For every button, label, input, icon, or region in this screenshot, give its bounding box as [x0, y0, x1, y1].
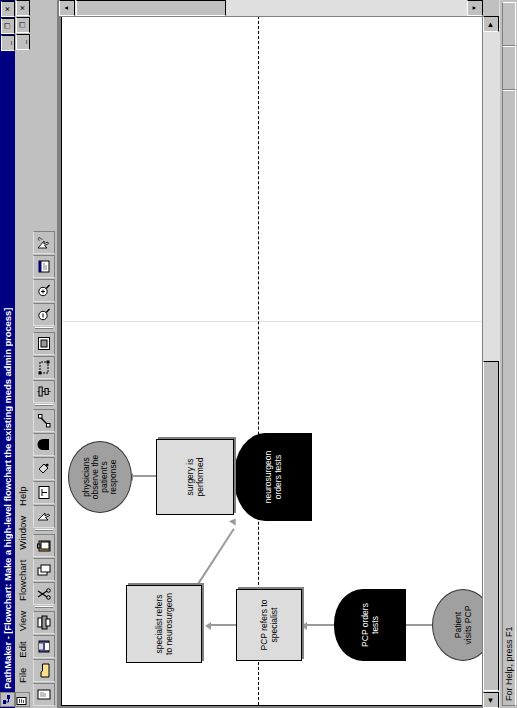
vertical-scroll-thumb[interactable]: [76, 0, 226, 16]
child-minimize-button[interactable]: _: [16, 34, 30, 50]
menu-item-flowchart[interactable]: Flowchart: [16, 555, 29, 606]
flowchart-node-pcp-refers-to-specialist[interactable]: PCP refers to specialist: [236, 589, 302, 661]
scroll-up-button[interactable]: ▲: [59, 0, 75, 16]
toolbar: ?: [31, 0, 58, 708]
status-help-text: For Help, press F1: [502, 90, 516, 706]
arrow-pointer-tool[interactable]: [33, 505, 55, 528]
toolbar-separator: [35, 528, 53, 533]
connector-pcp-tests-to-pcp-refers: [306, 624, 334, 626]
scroll-down-button[interactable]: ▼: [467, 0, 483, 16]
zoom-in-button[interactable]: [33, 279, 55, 302]
title-bar: PathMaker - [Flowchart: Make a high-leve…: [0, 0, 15, 708]
window-controls: _ ❐ ✕: [1, 1, 15, 51]
node-label-specialist-refers-to-neurosurgeon: specialist refers to neurosurgeon: [154, 593, 174, 655]
toolbar-separator: [35, 605, 53, 610]
mdi-child-window-controls: _ ❐ ✕: [16, 0, 30, 50]
flowchart-node-neurosurgeon-orders-tests[interactable]: neurosurgeon orders tests: [234, 433, 312, 521]
connector-line-tool[interactable]: [33, 409, 55, 432]
minimize-button[interactable]: _: [1, 35, 15, 51]
group-button[interactable]: [33, 356, 55, 379]
zoom-out-button[interactable]: [33, 303, 55, 326]
node-label-pcp-orders-tests: PCP orders tests: [360, 603, 380, 647]
flowchart-node-pcp-orders-tests[interactable]: PCP orders tests: [334, 589, 406, 661]
menu-item-window[interactable]: Window: [16, 511, 29, 555]
toolbar-separator: [35, 403, 53, 408]
align-button[interactable]: [33, 380, 55, 403]
frame-button[interactable]: [33, 332, 55, 355]
new-button[interactable]: [33, 683, 55, 706]
close-button[interactable]: ✕: [1, 1, 15, 17]
connector-surgery-to-observe: [132, 475, 156, 477]
menu-item-file[interactable]: File: [16, 663, 29, 688]
window-title: PathMaker - [Flowchart: Make a high-leve…: [2, 51, 13, 689]
horizontal-scroll-thumb[interactable]: [483, 361, 499, 691]
page-guide-vertical: [62, 321, 483, 322]
scrollbar-corner: [483, 0, 499, 16]
help-arrow-button[interactable]: ?: [33, 231, 55, 254]
flowchart-document-window: Patient visits PCP PCP orders tests PCP …: [61, 16, 483, 706]
node-label-physicians-observe-response: physicians observe the patient's respons…: [82, 455, 118, 499]
save-button[interactable]: [33, 635, 55, 658]
connector-start-to-pcp-tests: [406, 624, 432, 626]
menu-item-edit[interactable]: Edit: [16, 636, 29, 662]
flowchart-node-surgery-is-performed[interactable]: surgery is performed: [156, 439, 234, 515]
copy-button[interactable]: [33, 558, 55, 581]
scroll-right-button[interactable]: ▶: [483, 16, 499, 32]
menu-item-view[interactable]: View: [16, 606, 29, 636]
toolbar-separator: [35, 326, 53, 331]
flowchart-node-start[interactable]: Patient visits PCP: [432, 589, 483, 661]
child-restore-button[interactable]: ❐: [16, 17, 30, 33]
status-pane-2: [502, 46, 516, 90]
menu-item-help[interactable]: Help: [16, 481, 29, 511]
flowchart-node-specialist-refers-to-neurosurgeon[interactable]: specialist refers to neurosurgeon: [126, 585, 202, 663]
status-pane-3: [502, 2, 516, 46]
document-vertical-scrollbar[interactable]: ▲ ▼: [59, 0, 483, 17]
node-label-neurosurgeon-orders-tests: neurosurgeon orders tests: [263, 451, 283, 503]
arrowhead-pcp-refers-to-spec-refers: [205, 622, 211, 630]
properties-button[interactable]: [33, 255, 55, 278]
document-horizontal-scrollbar[interactable]: ◀ ▶: [482, 16, 499, 708]
connector-pcp-refers-to-spec-refers: [210, 624, 236, 626]
print-button[interactable]: [33, 611, 55, 634]
open-folder-button[interactable]: [33, 659, 55, 682]
flowchart-canvas[interactable]: Patient visits PCP PCP orders tests PCP …: [62, 16, 483, 705]
status-bar: For Help, press F1: [499, 0, 517, 708]
connector-spec-refers-to-neuro-tests: [197, 528, 234, 584]
cut-button[interactable]: [33, 582, 55, 605]
child-close-button[interactable]: ✕: [16, 0, 30, 16]
paste-clipboard-button[interactable]: [33, 534, 55, 557]
flowchart-node-physicians-observe-response[interactable]: physicians observe the patient's respons…: [68, 441, 132, 513]
text-tool-button[interactable]: [33, 481, 55, 504]
menu-bar: File Edit View Flowchart Window Help _ ❐…: [15, 0, 31, 708]
scroll-left-button[interactable]: ◀: [483, 692, 499, 708]
node-label-pcp-refers-to-specialist: PCP refers to specialist: [259, 600, 279, 651]
node-label-surgery-is-performed: surgery is performed: [185, 458, 205, 497]
pathmaker-icon: [0, 692, 15, 707]
arrowhead-spec-refers-to-neuro-tests: [229, 516, 239, 525]
svg-text:?: ?: [37, 237, 44, 241]
document-icon[interactable]: [15, 692, 30, 707]
restore-button[interactable]: ❐: [1, 18, 15, 34]
node-label-start: Patient visits PCP: [453, 606, 473, 645]
d-shape-tool[interactable]: [33, 433, 55, 456]
mdi-client-area: Patient visits PCP PCP orders tests PCP …: [58, 0, 499, 708]
paint-bucket-button[interactable]: [33, 457, 55, 480]
